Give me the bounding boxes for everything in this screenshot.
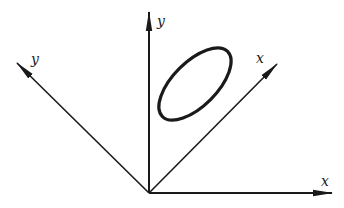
diagram-canvas: x y x y: [0, 0, 344, 208]
y-axis-rotated-label: y: [30, 51, 40, 67]
y-axis-rotated: [17, 63, 149, 193]
y-axis-fixed-label: y: [156, 13, 166, 29]
axes-diagram: x y x y: [0, 0, 344, 208]
x-axis-rotated-label: x: [256, 50, 264, 66]
ellipse-shape: [147, 36, 243, 132]
x-axis-fixed-label: x: [321, 173, 329, 189]
